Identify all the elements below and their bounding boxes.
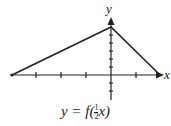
caption-suffix: x): [98, 103, 110, 119]
x-axis-label: x: [163, 67, 170, 82]
y-axis: [109, 22, 113, 100]
graph-caption: y = f(12x): [0, 103, 171, 121]
y-axis-label: y: [104, 1, 112, 16]
x-axis: [10, 72, 160, 78]
caption-prefix: y = f(: [61, 103, 94, 119]
endpoint-marker: [11, 74, 14, 77]
y-axis-arrow-icon: [108, 17, 115, 25]
function-graph: [12, 27, 160, 75]
